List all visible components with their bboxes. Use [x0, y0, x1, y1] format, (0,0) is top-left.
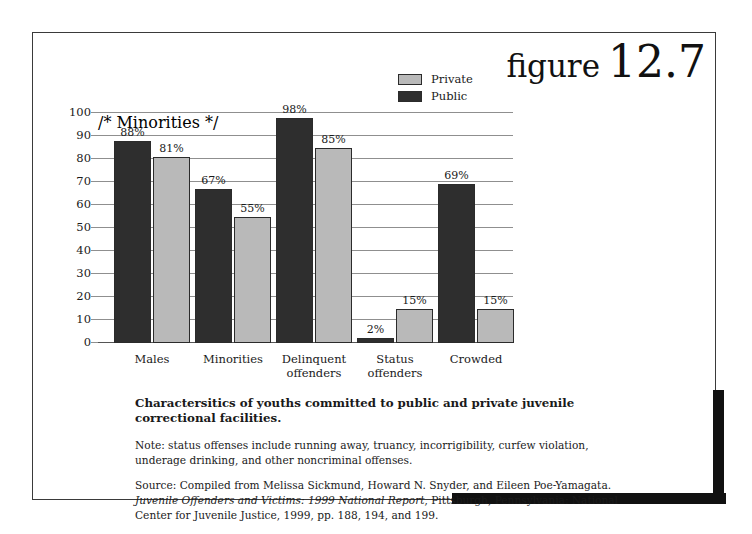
bar-group-delinquent-offenders: 98% 85% Delinquent offenders	[276, 113, 352, 343]
ytick-label-0: 0	[84, 335, 91, 349]
bar-value-minorities-private: 55%	[240, 202, 264, 215]
category-label-minorities: Minorities	[203, 352, 263, 366]
accent-bar-right	[713, 390, 724, 504]
figure-caption: Charactersitics of youths committed to p…	[135, 396, 640, 523]
bar-value-crowded-private: 15%	[483, 294, 507, 307]
bar-value-males-private: 81%	[159, 142, 183, 155]
tick-mark-20	[91, 296, 98, 297]
bar-crowded-public[interactable]: 69%	[438, 184, 475, 343]
chart-legend: Private Public	[398, 74, 473, 107]
legend-label-private: Private	[431, 74, 473, 86]
bar-delinquent-public[interactable]: 98%	[276, 118, 313, 343]
tick-mark-60	[91, 204, 98, 205]
caption-source: Source: Compiled from Melissa Sickmund, …	[135, 478, 640, 523]
tick-mark-0	[91, 342, 98, 343]
category-label-status-offenders: Status offenders	[368, 352, 423, 381]
tick-mark-70	[91, 181, 98, 182]
bar-value-delinquent-private: 85%	[321, 133, 345, 146]
category-label-status-line2: offenders	[368, 366, 423, 380]
figure-label: figure 12.7	[506, 36, 706, 87]
bar-group-males: 88% 81% Males	[114, 113, 190, 343]
bar-males-private[interactable]: 81%	[153, 157, 190, 343]
bar-delinquent-private[interactable]: 85%	[315, 148, 352, 344]
legend-label-public: Public	[431, 91, 467, 103]
bar-chart: 0 10 20 30 40 50	[56, 113, 516, 351]
category-label-status-line1: Status	[376, 352, 413, 366]
bar-group-minorities: 67% 55% Minorities	[195, 113, 271, 343]
tick-mark-90	[91, 135, 98, 136]
category-label-males: Males	[134, 352, 169, 366]
ytick-label-50: 50	[76, 220, 91, 234]
legend-item-public: Public	[398, 91, 473, 103]
ytick-label-40: 40	[76, 243, 91, 257]
tick-mark-80	[91, 158, 98, 159]
bar-minorities-private[interactable]: 55%	[234, 217, 271, 344]
figure-page: figure 12.7 Private Public 0 10 20	[0, 0, 752, 534]
bar-minorities-public[interactable]: 67%	[195, 189, 232, 343]
caption-title: Charactersitics of youths committed to p…	[135, 396, 640, 427]
category-label-crowded: Crowded	[450, 352, 503, 366]
figure-number: 12.7	[608, 36, 706, 87]
ytick-label-70: 70	[76, 174, 91, 188]
bar-value-delinquent-public: 98%	[282, 103, 306, 116]
legend-item-private: Private	[398, 74, 473, 86]
ytick-label-60: 60	[76, 197, 91, 211]
bar-value-crowded-public: 69%	[444, 169, 468, 182]
caption-note: Note: status offenses include running aw…	[135, 438, 640, 468]
bar-crowded-private[interactable]: 15%	[477, 309, 514, 344]
ytick-label-100: 100	[69, 105, 91, 119]
ytick-label-80: 80	[76, 151, 91, 165]
category-label-delinquent-line1: Delinquent	[282, 352, 346, 366]
ytick-label-90: 90	[76, 128, 91, 142]
ytick-label-10: 10	[76, 312, 91, 326]
tick-mark-50	[91, 227, 98, 228]
bar-group-status-offenders: 2% 15% Status offenders	[357, 113, 433, 343]
legend-swatch-public	[398, 91, 422, 102]
legend-swatch-private	[398, 74, 422, 85]
ytick-label-30: 30	[76, 266, 91, 280]
bar-males-public[interactable]: 88%	[114, 141, 151, 343]
figure-word: figure	[506, 48, 600, 84]
plot-area: 0 10 20 30 40 50	[98, 113, 513, 343]
bar-status-public[interactable]: 2%	[357, 338, 394, 343]
caption-source-title: Juvenile Offenders and Victims: 1999 Nat…	[135, 494, 424, 506]
tick-mark-100	[91, 112, 98, 113]
bar-status-private[interactable]: 15%	[396, 309, 433, 344]
bar-series-container: 88% 81% Males /* Minorities */ 67% 55% M	[98, 113, 513, 343]
bar-value-minorities-public: 67%	[201, 174, 225, 187]
tick-mark-30	[91, 273, 98, 274]
caption-source-lead: Source: Compiled from Melissa Sickmund, …	[135, 479, 611, 491]
ytick-label-20: 20	[76, 289, 91, 303]
bar-value-males-public: 88%	[120, 126, 144, 139]
tick-mark-40	[91, 250, 98, 251]
category-label-delinquent-offenders: Delinquent offenders	[282, 352, 346, 381]
bar-group-crowded: 69% 15% Crowded	[438, 113, 514, 343]
bar-value-status-public: 2%	[367, 323, 384, 336]
tick-mark-10	[91, 319, 98, 320]
bar-value-status-private: 15%	[402, 294, 426, 307]
category-label-delinquent-line2: offenders	[287, 366, 342, 380]
